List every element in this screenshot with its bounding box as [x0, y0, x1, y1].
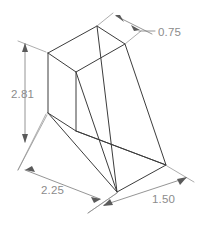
ext-line-2-25-left	[18, 115, 47, 170]
ext-line-0-75-b	[125, 31, 141, 44]
dim-label-0-75: 0.75	[158, 26, 181, 38]
arrow-2-25-start	[25, 166, 35, 172]
ext-line-2-81-top	[18, 41, 46, 52]
dim-label-1-50: 1.50	[152, 193, 175, 205]
technical-drawing-canvas: 0.75 2.81 2.25 1.50	[0, 0, 210, 226]
dim-label-2-25: 2.25	[41, 184, 64, 196]
arrow-2-25-end	[91, 197, 101, 203]
arrow-1-50-start	[103, 199, 113, 206]
arrow-2-81-bottom	[22, 134, 28, 143]
dim-label-2-81: 2.81	[11, 88, 34, 100]
arrow-1-50-end	[177, 177, 187, 185]
isometric-wedge-drawing: 0.75 2.81 2.25 1.50	[0, 0, 210, 226]
ext-line-0-75-a	[97, 13, 113, 26]
solid-body	[48, 26, 166, 192]
